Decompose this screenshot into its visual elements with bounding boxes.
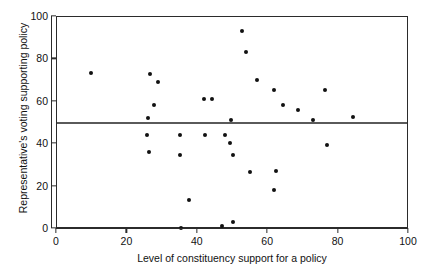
- data-point: [210, 97, 215, 102]
- data-point: [351, 115, 356, 120]
- x-tick-mark: [337, 228, 338, 233]
- x-tick-label: 80: [318, 235, 358, 247]
- x-tick-label: 20: [106, 235, 146, 247]
- scatter-plot-figure: Representative's voting supporting polic…: [0, 0, 432, 273]
- x-tick-label: 40: [177, 235, 217, 247]
- data-point: [325, 143, 330, 148]
- y-tick-label: 0: [22, 222, 48, 234]
- data-point: [231, 153, 236, 158]
- data-point: [231, 220, 236, 225]
- data-point: [323, 88, 328, 93]
- data-point: [156, 80, 161, 85]
- data-point: [152, 103, 157, 108]
- x-tick-mark: [407, 228, 408, 233]
- x-tick-mark: [267, 228, 268, 233]
- data-point: [296, 108, 301, 113]
- x-tick-label: 100: [388, 235, 428, 247]
- data-point: [145, 133, 150, 138]
- reference-line-50: [57, 122, 407, 123]
- y-tick-label: 100: [22, 10, 48, 22]
- data-point: [89, 71, 94, 76]
- data-point: [281, 103, 286, 108]
- data-point: [202, 97, 207, 102]
- x-tick-mark: [196, 228, 197, 233]
- x-tick-mark: [126, 228, 127, 233]
- data-point: [147, 150, 152, 155]
- data-point: [178, 153, 183, 158]
- data-point: [244, 50, 249, 55]
- data-point: [146, 116, 151, 121]
- x-tick-label: 60: [247, 235, 287, 247]
- y-tick-label: 80: [22, 52, 48, 64]
- data-point: [187, 198, 192, 203]
- data-point: [274, 169, 279, 174]
- y-tick-label: 20: [22, 180, 48, 192]
- data-point: [203, 133, 208, 138]
- x-axis-label: Level of constituency support for a poli…: [56, 252, 408, 264]
- y-tick-label: 40: [22, 137, 48, 149]
- y-tick-label: 60: [22, 95, 48, 107]
- x-tick-label: 0: [36, 235, 76, 247]
- data-point: [248, 170, 253, 175]
- data-point: [223, 133, 228, 138]
- data-point: [228, 141, 233, 146]
- x-tick-mark: [55, 228, 56, 233]
- y-axis-ticks: 020406080100: [0, 16, 56, 228]
- data-point: [178, 133, 183, 138]
- data-point: [240, 29, 245, 34]
- data-point: [255, 78, 260, 83]
- x-axis-ticks: 020406080100: [56, 228, 408, 252]
- plot-area: [56, 16, 408, 228]
- data-point: [272, 188, 277, 193]
- data-point: [272, 88, 277, 93]
- data-point: [148, 72, 153, 77]
